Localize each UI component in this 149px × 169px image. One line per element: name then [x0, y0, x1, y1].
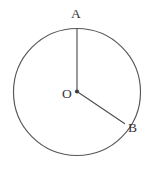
circle-diagram-canvas [0, 0, 149, 169]
point-label-a: A [71, 7, 81, 21]
point-label-b: B [128, 121, 137, 135]
point-label-o: O [62, 87, 72, 101]
geometry-figure: A O B [0, 0, 149, 169]
center-point-dot [75, 89, 79, 93]
radius-line-ob [77, 92, 125, 124]
